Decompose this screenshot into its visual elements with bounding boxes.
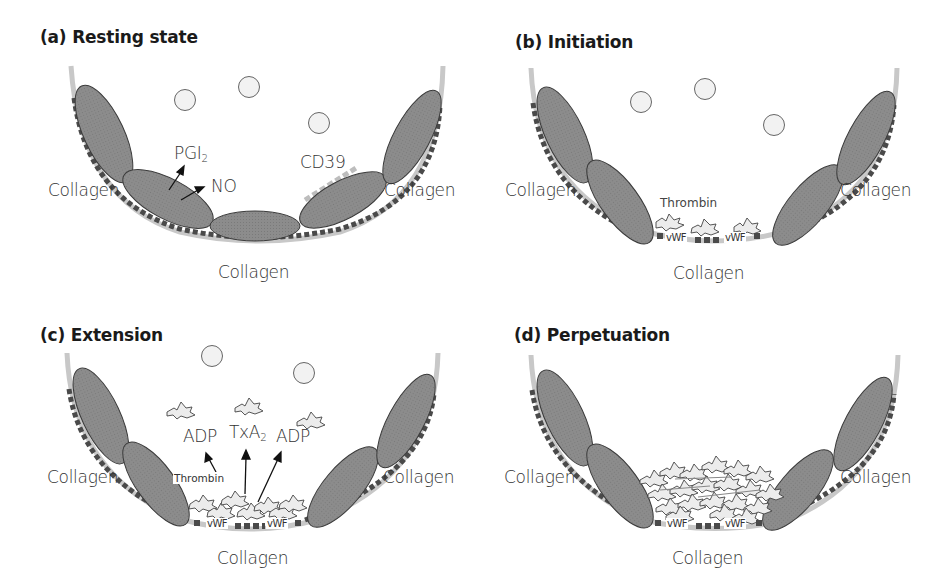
panel-resting-state: (a) Resting state PGI2 NO CD39 Collagen … bbox=[0, 0, 470, 294]
pgi2-label: PGI2 bbox=[174, 143, 208, 164]
collagen-left-label: Collagen bbox=[48, 180, 119, 200]
endothelial-cells bbox=[63, 78, 452, 241]
red-blood-cells bbox=[175, 77, 330, 134]
collagen-bottom-label: Collagen bbox=[672, 548, 743, 568]
collagen-left-label: Collagen bbox=[505, 180, 576, 200]
txa2-label: TxA2 bbox=[229, 422, 266, 443]
vwf-label-2: vWF bbox=[266, 518, 288, 529]
vwf-label-1: vWF bbox=[206, 518, 228, 529]
endothelial-cells bbox=[526, 80, 907, 256]
panel-title: (d) Perpetuation bbox=[514, 325, 670, 345]
collagen-left-label: Collagen bbox=[504, 467, 575, 487]
collagen-right-label: Collagen bbox=[383, 467, 454, 487]
cd39-label: CD39 bbox=[300, 152, 345, 172]
adp-left-label: ADP bbox=[183, 426, 217, 446]
collagen-right-label: Collagen bbox=[840, 180, 911, 200]
adp-right-label: ADP bbox=[276, 426, 310, 446]
collagen-left-label: Collagen bbox=[47, 467, 118, 487]
collagen-bottom-label: Collagen bbox=[217, 548, 288, 568]
red-blood-cells bbox=[631, 79, 785, 136]
collagen-bottom-label: Collagen bbox=[218, 262, 289, 282]
panel-title: (a) Resting state bbox=[40, 27, 198, 47]
no-label: NO bbox=[211, 176, 237, 196]
panel-title: (c) Extension bbox=[40, 325, 163, 345]
panel-perpetuation: (d) Perpetuation vWF vWF Collagen Collag… bbox=[470, 294, 940, 588]
collagen-bottom-label: Collagen bbox=[673, 263, 744, 283]
vwf-label-1: vWF bbox=[666, 518, 688, 529]
vwf-label-1: vWF bbox=[665, 232, 687, 243]
thrombin-label: Thrombin bbox=[173, 472, 225, 484]
vwf-label-2: vWF bbox=[724, 232, 746, 243]
panel-extension: (c) Extension ADP TxA2 ADP Thrombin vWF … bbox=[0, 294, 470, 588]
platelet-aggregate bbox=[640, 456, 784, 525]
collagen-right-label: Collagen bbox=[384, 180, 455, 200]
panel-title: (b) Initiation bbox=[515, 32, 633, 52]
vwf-label-2: vWF bbox=[724, 518, 746, 529]
collagen-right-label: Collagen bbox=[840, 467, 911, 487]
thrombin-label: Thrombin bbox=[660, 196, 717, 210]
red-blood-cells bbox=[202, 346, 315, 384]
panel-initiation: (b) Initiation Thrombin vWF vWF Collagen… bbox=[470, 0, 940, 294]
